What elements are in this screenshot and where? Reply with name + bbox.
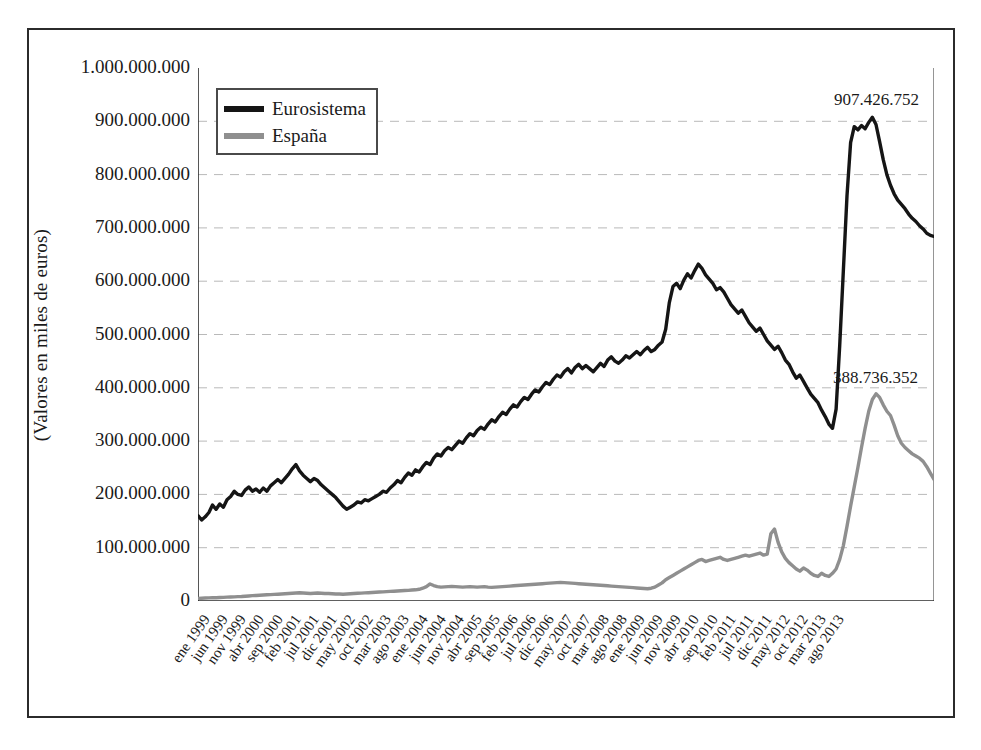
chart-figure: (Valores en miles de euros) 1.000.000.00…: [0, 0, 981, 750]
legend-swatch-espana: [224, 133, 264, 139]
legend-item-espana: España: [224, 122, 376, 149]
annotation-eurosistema-peak: 907.426.752: [834, 90, 919, 110]
legend-label-espana: España: [272, 126, 327, 145]
legend-item-eurosistema: Eurosistema: [224, 95, 376, 122]
annotation-espana-peak: 388.736.352: [833, 368, 918, 388]
legend-swatch-eurosistema: [224, 106, 264, 112]
legend-label-eurosistema: Eurosistema: [272, 99, 366, 118]
chart-legend: Eurosistema España: [216, 88, 378, 155]
